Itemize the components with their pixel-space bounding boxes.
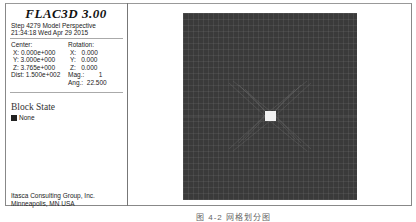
- legend-label: None: [19, 114, 35, 121]
- model-viewport[interactable]: [183, 13, 357, 200]
- legend-swatch: [11, 115, 17, 121]
- center-z: Z: 3.765e+000: [11, 64, 60, 72]
- opening: [265, 111, 276, 121]
- figure-caption: 图 4-2 网格划分图: [196, 211, 271, 222]
- timestamp: 21:34:18 Wed Apr 29 2015: [11, 29, 88, 37]
- divider: [10, 38, 123, 39]
- center-label: Center:: [11, 41, 60, 49]
- angle: Ang.: 22.500: [68, 79, 107, 87]
- legend-title: Block State: [11, 102, 55, 112]
- rotation-y: Y: 0.000: [68, 56, 107, 64]
- info-panel: FLAC3D 3.00 Step 4279 Model Perspective …: [5, 3, 128, 206]
- rotation-block: Rotation: X: 0.000 Y: 0.000 Z: 0.000 Mag…: [68, 41, 107, 86]
- center-y: Y: 3.000e+000: [11, 56, 60, 64]
- magnification: Mag.: 1: [68, 71, 107, 79]
- footer: Itasca Consulting Group, Inc. Minneapoli…: [11, 192, 95, 207]
- divider: [10, 92, 123, 93]
- center-x: X: 0.000e+000: [11, 49, 60, 57]
- company-location: Minneapolis, MN USA: [11, 200, 95, 208]
- distance: Dist: 1.500e+002: [11, 71, 60, 79]
- center-block: Center: X: 0.000e+000 Y: 3.000e+000 Z: 3…: [11, 41, 60, 79]
- rotation-x: X: 0.000: [68, 49, 107, 57]
- rotation-z: Z: 0.000: [68, 64, 107, 72]
- company-name: Itasca Consulting Group, Inc.: [11, 192, 95, 200]
- mesh-plot: [183, 13, 357, 200]
- app-title: FLAC3D 3.00: [5, 6, 127, 22]
- rotation-label: Rotation:: [68, 41, 107, 49]
- legend-item: None: [11, 114, 35, 121]
